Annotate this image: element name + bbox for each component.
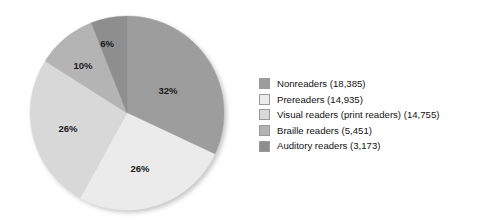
legend-label-braille-readers: Braille readers (5,451) (277, 126, 372, 136)
slice-percent-label-braille-readers: 10% (73, 60, 92, 71)
legend-label-nonreaders: Nonreaders (18,385) (277, 79, 366, 89)
legend-item-nonreaders: Nonreaders (18,385) (259, 76, 474, 92)
pie-chart-figure: 32% 26% 26% 10% 6% Nonreaders (18,385) P… (0, 0, 479, 223)
legend-swatch-nonreaders (259, 78, 270, 89)
legend-swatch-braille-readers (259, 125, 270, 136)
legend-item-braille-readers: Braille readers (5,451) (259, 123, 474, 139)
legend-item-prereaders: Prereaders (14,935) (259, 92, 474, 108)
legend-label-auditory-readers: Auditory readers (3,173) (277, 141, 380, 151)
slice-percent-label-visual-readers: 26% (58, 123, 77, 134)
legend-label-prereaders: Prereaders (14,935) (277, 95, 363, 105)
legend-swatch-auditory-readers (259, 141, 270, 152)
pie-chart-svg (0, 0, 250, 223)
legend-label-visual-readers: Visual readers (print readers) (14,755) (277, 110, 439, 120)
legend-swatch-prereaders (259, 94, 270, 105)
slice-percent-label-nonreaders: 32% (158, 85, 177, 96)
legend-item-auditory-readers: Auditory readers (3,173) (259, 138, 474, 154)
legend-item-visual-readers: Visual readers (print readers) (14,755) (259, 107, 474, 123)
slice-percent-label-prereaders: 26% (130, 163, 149, 174)
slice-percent-label-auditory-readers: 6% (100, 38, 114, 49)
pie-slice-group (30, 16, 224, 210)
chart-legend: Nonreaders (18,385) Prereaders (14,935) … (259, 76, 474, 154)
legend-swatch-visual-readers (259, 109, 270, 120)
pie-chart-plot-area: 32% 26% 26% 10% 6% (0, 0, 250, 223)
